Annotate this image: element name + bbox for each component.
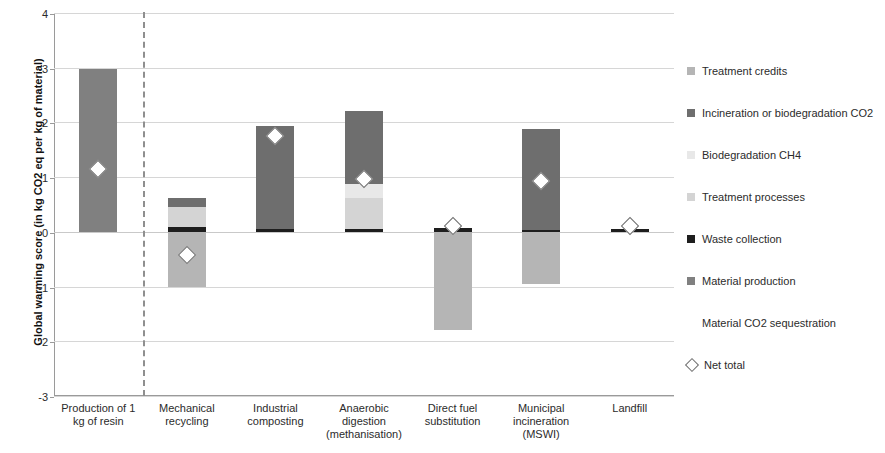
legend-label: Material CO2 sequestration (702, 317, 836, 329)
category-separator (143, 12, 145, 396)
x-axis-category-label-line: digestion (320, 415, 409, 428)
legend-item[interactable]: Treatment processes (687, 190, 805, 204)
legend-swatch-icon (687, 235, 695, 243)
x-axis-category-label: Mechanicalrecycling (143, 402, 232, 428)
x-axis-category-label-line: Industrial (231, 402, 320, 415)
y-tick-mark (50, 123, 54, 124)
y-tick-mark (50, 342, 54, 343)
bar-group[interactable] (168, 13, 206, 396)
x-axis-category-label: Municipalincineration(MSWI) (497, 402, 586, 441)
bar-segment (522, 232, 560, 284)
y-tick-label: 0 (42, 227, 48, 239)
legend-item[interactable]: Biodegradation CH4 (687, 148, 801, 162)
legend-label: Net total (704, 359, 745, 371)
legend-swatch-icon (687, 277, 695, 285)
x-axis-category-label-line: composting (231, 415, 320, 428)
y-tick-label: -1 (38, 282, 48, 294)
x-axis-category-label: Landfill (585, 402, 674, 415)
y-tick-mark (50, 69, 54, 70)
legend-swatch-icon (687, 67, 695, 75)
y-tick-mark (50, 397, 54, 398)
x-axis-category-label-line: Mechanical (143, 402, 232, 415)
bar-segment (434, 232, 472, 330)
y-tick-label: -3 (38, 391, 48, 403)
x-axis-category-label-line: Landfill (585, 402, 674, 415)
bar-group[interactable] (345, 13, 383, 396)
legend-swatch-icon (687, 109, 695, 117)
y-tick-label: 2 (42, 117, 48, 129)
bar-segment (79, 69, 117, 232)
legend-label: Treatment processes (702, 191, 805, 203)
y-axis-title: Global warming score (in kg CO2 eq per k… (32, 22, 44, 382)
legend-label: Treatment credits (702, 65, 787, 77)
plot-area: 43210-1-2-3 (54, 13, 674, 396)
legend-item[interactable]: Incineration or biodegradation CO2 (687, 106, 873, 120)
legend-diamond-icon (685, 358, 699, 372)
net-total-marker (621, 217, 639, 235)
bar-segment (256, 229, 294, 232)
y-tick-label: 4 (42, 8, 48, 20)
legend-item[interactable]: Treatment credits (687, 64, 787, 78)
x-axis-category-label: Industrialcomposting (231, 402, 320, 428)
legend-item[interactable]: Net total (687, 358, 745, 372)
x-axis-category-label-line: Production of 1 (54, 402, 143, 415)
bar-group[interactable] (434, 13, 472, 396)
x-axis-category-label-line: Direct fuel (408, 402, 497, 415)
x-axis-category-label: Direct fuelsubstitution (408, 402, 497, 428)
legend-item[interactable]: Material CO2 sequestration (687, 316, 836, 330)
bar-group[interactable] (256, 13, 294, 396)
bar-group[interactable] (611, 13, 649, 396)
bar-group[interactable] (522, 13, 560, 396)
x-axis-category-label-line: (methanisation) (320, 428, 409, 441)
x-axis-category-label-line: substitution (408, 415, 497, 428)
bar-segment (345, 198, 383, 229)
chart-figure: Global warming score (in kg CO2 eq per k… (0, 0, 885, 453)
bar-group[interactable] (79, 13, 117, 396)
y-tick-mark (50, 178, 54, 179)
x-axis-category-label-line: (MSWI) (497, 428, 586, 441)
x-axis-category-label: Production of 1kg of resin (54, 402, 143, 428)
legend-swatch-icon (687, 193, 695, 201)
bar-segment (168, 198, 206, 207)
x-axis-category-label-line: Anaerobic (320, 402, 409, 415)
legend-label: Incineration or biodegradation CO2 (702, 107, 873, 119)
legend-label: Material production (702, 275, 796, 287)
x-axis-category-label-line: Municipal (497, 402, 586, 415)
y-tick-mark (50, 233, 54, 234)
x-axis-category-label: Anaerobicdigestion(methanisation) (320, 402, 409, 441)
y-tick-label: 3 (42, 63, 48, 75)
y-tick-label: -2 (38, 336, 48, 348)
legend-swatch-blank-icon (687, 319, 695, 327)
legend-label: Biodegradation CH4 (702, 149, 801, 161)
x-axis-category-label-line: kg of resin (54, 415, 143, 428)
gridline: -3 (54, 396, 674, 397)
bar-segment (168, 207, 206, 227)
legend-swatch-icon (687, 151, 695, 159)
y-tick-mark (50, 288, 54, 289)
legend-item[interactable]: Material production (687, 274, 796, 288)
y-tick-label: 1 (42, 172, 48, 184)
x-axis-category-label-line: incineration (497, 415, 586, 428)
y-tick-mark (50, 14, 54, 15)
x-axis-category-label-line: recycling (143, 415, 232, 428)
bar-segment (345, 229, 383, 232)
legend-label: Waste collection (702, 233, 782, 245)
legend-item[interactable]: Waste collection (687, 232, 782, 246)
